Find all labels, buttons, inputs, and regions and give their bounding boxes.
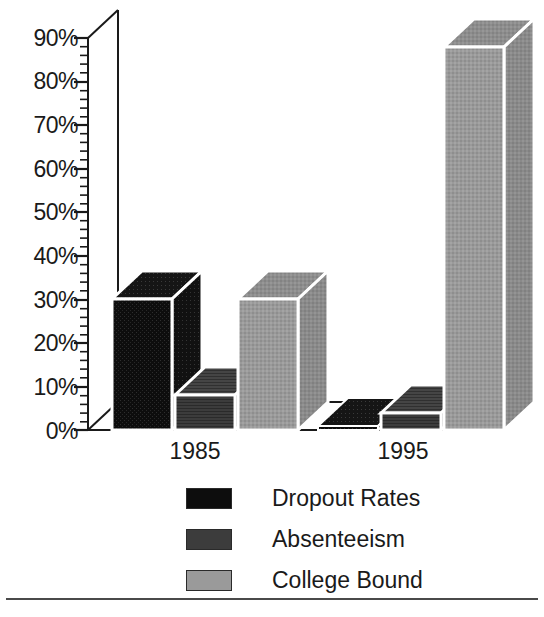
x-axis-tick-label: 1985: [155, 440, 235, 463]
legend-item-college-bound: College Bound: [186, 560, 516, 601]
bar-1995-college-bound: [444, 19, 534, 430]
legend-item-dropout-rates: Dropout Rates: [186, 478, 516, 519]
chart-legend: Dropout Rates Absenteeism College Bound: [186, 478, 516, 601]
legend-label: College Bound: [272, 569, 423, 592]
legend-label: Absenteeism: [272, 528, 405, 551]
plot-area: [0, 0, 544, 470]
legend-label: Dropout Rates: [272, 487, 420, 510]
y-axis-ticks: [74, 38, 88, 430]
legend-swatch-icon: [186, 488, 232, 509]
bar-1985-college-bound: [238, 271, 328, 430]
legend-swatch-icon: [186, 570, 232, 591]
legend-item-absenteeism: Absenteeism: [186, 519, 516, 560]
page-divider: [6, 598, 538, 600]
legend-swatch-icon: [186, 529, 232, 550]
x-axis-tick-label: 1995: [363, 440, 443, 463]
bar-chart: 90% 80% 70% 60% 50% 40% 30% 20% 10% 0%: [0, 0, 544, 617]
